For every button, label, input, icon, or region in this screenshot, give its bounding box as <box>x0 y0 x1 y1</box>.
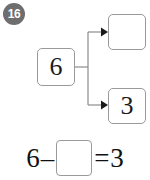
worksheet-question: 16 6 3 6 – = 3 <box>0 0 150 180</box>
equation-minus-operator: – <box>40 145 56 172</box>
number-bond-part-box-top[interactable] <box>108 14 146 50</box>
equation-result: 3 <box>110 145 124 172</box>
equation-minuend: 6 <box>26 145 40 172</box>
number-bond-whole-box[interactable]: 6 <box>37 48 75 86</box>
equation-answer-blank[interactable] <box>56 140 92 176</box>
number-bond-diagram: 6 3 <box>0 0 150 132</box>
equation-row: 6 – = 3 <box>0 136 150 180</box>
arrowhead-top-icon <box>101 28 108 37</box>
number-bond-part-box-bottom[interactable]: 3 <box>108 88 146 124</box>
equation-equals-sign: = <box>93 145 110 172</box>
arrowhead-bottom-icon <box>101 101 108 110</box>
